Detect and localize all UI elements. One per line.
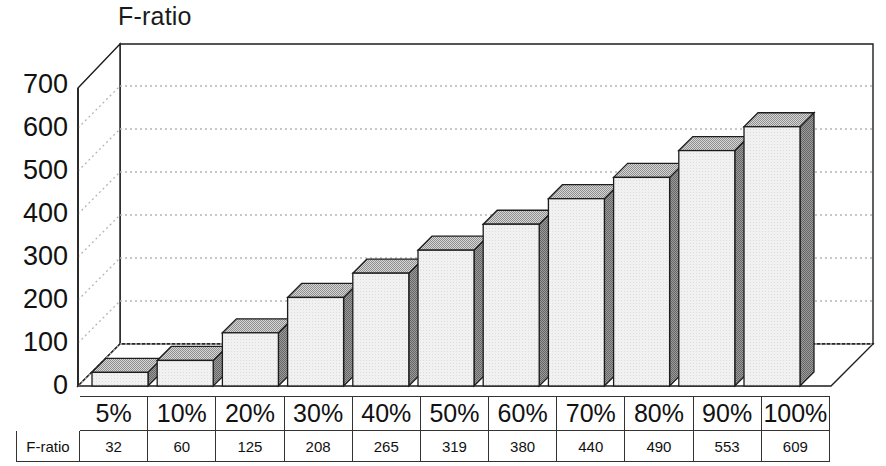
left-wall: [78, 44, 120, 386]
bar-10%: [157, 346, 227, 386]
bar-90%: [679, 137, 749, 386]
value-cell: 32: [80, 431, 148, 462]
category-cell: 10%: [148, 397, 216, 431]
y-tick-700: 700: [0, 71, 68, 98]
value-cell: 609: [761, 431, 829, 462]
y-tick-500: 500: [0, 157, 68, 184]
bar-front-face: [288, 297, 344, 386]
value-cell: 60: [148, 431, 216, 462]
category-cell: 50%: [420, 397, 488, 431]
bar-front-face: [353, 273, 409, 386]
y-tick-200: 200: [0, 286, 68, 313]
bar-side-face: [800, 113, 814, 386]
bar-50%: [418, 236, 488, 386]
bar-60%: [483, 210, 553, 386]
bar-front-face: [157, 360, 213, 386]
y-tick-0: 0: [0, 372, 68, 399]
y-tick-400: 400: [0, 200, 68, 227]
value-cell: 319: [420, 431, 488, 462]
table-row-categories: 5% 10% 20% 30% 40% 50% 60% 70% 80% 90% 1…: [17, 397, 830, 431]
bar-front-face: [548, 199, 604, 386]
value-cell: 265: [352, 431, 420, 462]
bar-5%: [92, 358, 162, 386]
plot-area-3d: [0, 0, 886, 400]
bar-30%: [288, 283, 358, 386]
value-cell: 125: [216, 431, 284, 462]
category-cell: 90%: [693, 397, 761, 431]
chart-figure: F-ratio: [0, 0, 886, 466]
bar-70%: [548, 185, 618, 386]
y-tick-100: 100: [0, 329, 68, 356]
table-row-values: F-ratio 32 60 125 208 265 319 380 440 49…: [17, 431, 830, 462]
table-corner-cell: [17, 397, 80, 431]
category-cell: 20%: [216, 397, 284, 431]
bar-front-face: [744, 127, 800, 386]
category-cell: 60%: [489, 397, 557, 431]
value-cell: 208: [284, 431, 352, 462]
category-cell: 30%: [284, 397, 352, 431]
table-row-header: F-ratio: [17, 431, 80, 462]
bar-front-face: [92, 372, 148, 386]
category-cell: 5%: [80, 397, 148, 431]
y-tick-600: 600: [0, 114, 68, 141]
data-table: 5% 10% 20% 30% 40% 50% 60% 70% 80% 90% 1…: [16, 396, 830, 462]
bar-100%: [744, 113, 814, 386]
bar-front-face: [222, 333, 278, 386]
value-cell: 440: [557, 431, 625, 462]
category-cell: 70%: [557, 397, 625, 431]
value-cell: 380: [489, 431, 557, 462]
bar-front-face: [614, 177, 670, 386]
bar-front-face: [483, 224, 539, 386]
category-cell: 80%: [625, 397, 693, 431]
y-tick-300: 300: [0, 243, 68, 270]
category-cell: 40%: [352, 397, 420, 431]
category-cell: 100%: [761, 397, 829, 431]
bar-front-face: [418, 250, 474, 386]
chart-svg: [0, 0, 886, 400]
value-cell: 553: [693, 431, 761, 462]
bar-40%: [353, 259, 423, 386]
value-cell: 490: [625, 431, 693, 462]
bar-80%: [614, 163, 684, 386]
bar-front-face: [679, 151, 735, 386]
bar-20%: [222, 319, 292, 386]
